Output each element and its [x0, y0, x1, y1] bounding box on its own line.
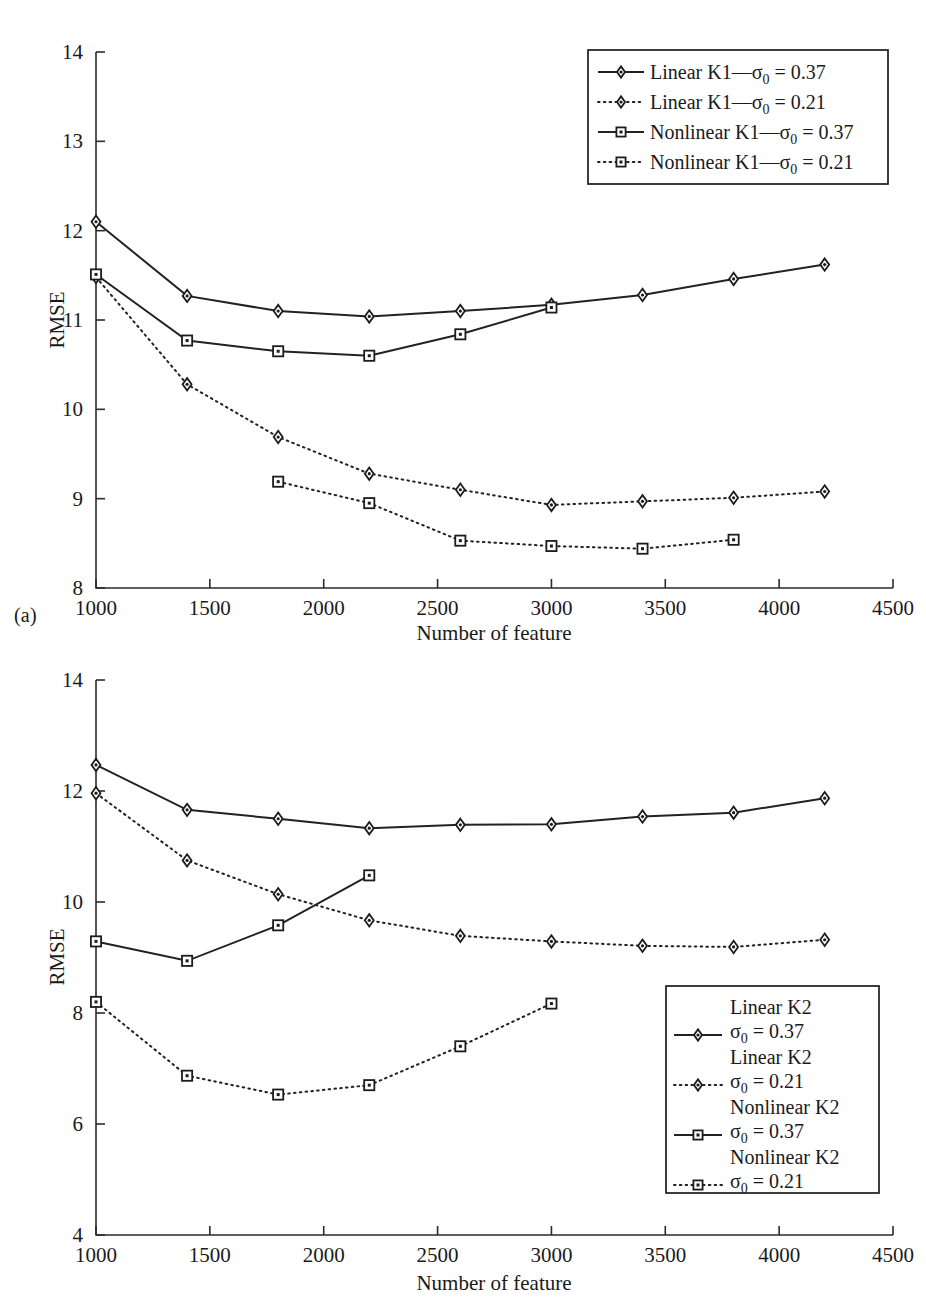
x-tick-label: 4000: [758, 596, 800, 620]
chart-panel-b: 468101214 100015002000250030003500400045…: [0, 645, 926, 1316]
y-tick-label: 10: [62, 397, 83, 421]
chart-a-svg: 891011121314 100015002000250030003500400…: [0, 0, 926, 650]
x-tick-label: 1500: [189, 596, 231, 620]
x-tick-label: 4000: [758, 1243, 800, 1267]
y-tick-label: 8: [73, 1001, 84, 1025]
x-tick-label: 3000: [530, 596, 572, 620]
x-tick-label: 3500: [644, 1243, 686, 1267]
x-tick-label: 1000: [75, 596, 117, 620]
legend-label: Nonlinear K2: [730, 1146, 839, 1168]
y-tick-label: 6: [73, 1112, 84, 1136]
y-tick-label: 12: [62, 779, 83, 803]
series-line: [278, 482, 733, 549]
x-tick-label: 1000: [75, 1243, 117, 1267]
x-tick-label: 2500: [417, 596, 459, 620]
x-tick-label: 4500: [872, 596, 914, 620]
chart-a-series-group: [91, 216, 829, 554]
series-markers: [91, 870, 374, 966]
legend-label: Linear K2: [730, 1046, 812, 1068]
y-tick-label: 10: [62, 890, 83, 914]
y-tick-label: 13: [62, 129, 83, 153]
series-line: [96, 222, 825, 317]
figure-container: 891011121314 100015002000250030003500400…: [0, 0, 926, 1316]
legend-label: Nonlinear K2: [730, 1096, 839, 1118]
chart-b-svg: 468101214 100015002000250030003500400045…: [0, 645, 926, 1316]
chart-a-y-axis-title: RMSE: [45, 291, 69, 348]
x-tick-label: 2000: [303, 596, 345, 620]
y-tick-label: 14: [62, 668, 84, 692]
legend-marker-sample: [616, 157, 625, 166]
y-tick-label: 14: [62, 40, 84, 64]
chart-b-x-axis-title: Number of feature: [416, 1271, 571, 1295]
x-tick-label: 1500: [189, 1243, 231, 1267]
series-markers: [91, 269, 557, 360]
chart-a-legend: Linear K1—σ0 = 0.37Linear K1—σ0 = 0.21No…: [588, 50, 888, 184]
x-tick-label: 3500: [644, 596, 686, 620]
series-line: [96, 1002, 551, 1095]
chart-b-y-axis-title: RMSE: [45, 928, 69, 985]
x-tick-label: 2500: [417, 1243, 459, 1267]
series-markers: [273, 477, 739, 554]
x-tick-label: 4500: [872, 1243, 914, 1267]
chart-panel-a: 891011121314 100015002000250030003500400…: [0, 0, 926, 650]
series-markers: [92, 216, 830, 323]
chart-a-x-tick-labels: 10001500200025003000350040004500: [75, 596, 914, 620]
series-line: [96, 274, 551, 355]
series-line: [96, 793, 825, 947]
chart-b-legend: Linear K2σ0 = 0.37Linear K2σ0 = 0.21Nonl…: [666, 986, 879, 1196]
legend-marker-sample: [693, 1180, 702, 1189]
chart-a-x-axis-title: Number of feature: [416, 621, 571, 645]
series-markers: [92, 759, 830, 835]
chart-a-x-ticks: [96, 579, 893, 588]
chart-a-y-ticks: [96, 52, 105, 588]
y-tick-label: 9: [73, 487, 84, 511]
legend-label: Linear K2: [730, 996, 812, 1018]
chart-b-x-ticks: [96, 1226, 893, 1235]
series-markers: [91, 997, 557, 1100]
panel-a-tag: (a): [14, 604, 37, 627]
legend-marker-sample: [616, 127, 625, 136]
chart-b-x-tick-labels: 10001500200025003000350040004500: [75, 1243, 914, 1267]
legend-marker-sample: [693, 1130, 702, 1139]
series-line: [96, 875, 369, 960]
y-tick-label: 12: [62, 219, 83, 243]
x-tick-label: 3000: [530, 1243, 572, 1267]
x-tick-label: 2000: [303, 1243, 345, 1267]
